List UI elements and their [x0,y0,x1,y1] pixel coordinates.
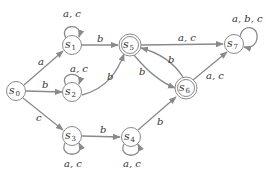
svg-text:0: 0 [16,90,20,98]
svg-text:s: s [65,38,71,51]
svg-text:s: s [123,38,129,51]
label-s1-loop: a, c [63,8,81,19]
state-s5-accepting: s5 [119,34,141,56]
svg-text:5: 5 [130,44,134,52]
svg-text:s: s [227,37,233,50]
edge-s2-s5 [82,54,124,95]
label-s4-s6: b [157,116,163,127]
label-s0-s3: c [36,112,42,123]
state-s3: s3 [63,127,82,146]
state-s0: s0 [7,82,26,101]
svg-text:s: s [65,129,71,142]
label-s3-s4: b [100,124,106,135]
state-s6-accepting: s6 [175,77,197,99]
svg-text:s: s [9,84,15,97]
label-s0-s2: b [42,79,48,90]
label-s1-s5: b [97,33,103,44]
label-s7-loop: a, b, c [232,13,263,24]
diagram-canvas: s0 s1 s2 s3 s4 s5 s6 s7 a b c a, c b a, … [0,0,266,184]
svg-text:1: 1 [72,44,76,52]
edge-s5-s7 [141,44,223,45]
svg-text:2: 2 [72,91,76,99]
label-s2-loop: a, c [70,63,88,74]
svg-text:4: 4 [131,136,136,144]
svg-text:6: 6 [186,87,191,95]
edge-s0-s3 [23,98,63,130]
state-s2: s2 [63,83,82,102]
svg-text:s: s [65,85,71,98]
label-s6-s5: b [168,54,174,65]
state-s7: s7 [225,35,244,54]
svg-text:7: 7 [234,43,238,51]
label-s5-s6: b [139,66,145,77]
label-s2-s5: b [107,71,113,82]
label-s4-loop: a, c [123,158,141,169]
state-diagram: s0 s1 s2 s3 s4 s5 s6 s7 a b c a, c b a, … [0,0,266,184]
edge-s0-s2 [26,91,62,92]
svg-text:s: s [179,81,185,94]
svg-text:s: s [124,130,130,143]
label-s0-s1: a [38,56,44,67]
state-s4: s4 [122,128,141,147]
svg-text:3: 3 [72,135,76,143]
state-s1: s1 [63,36,82,55]
edge-s6-s5 [141,48,183,77]
label-s6-s7: a, c [206,70,224,81]
label-s3-loop: a, c [64,158,82,169]
edge-s3-s4 [82,136,120,137]
label-s5-s7: a, c [178,32,196,43]
